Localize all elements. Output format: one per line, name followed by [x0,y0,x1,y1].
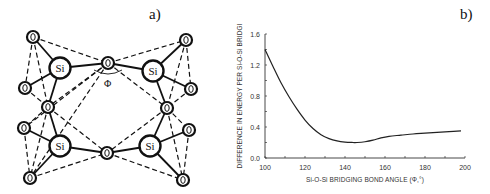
y-axis-title: DIFFERENCE IN ENERGY PER Si-O-Si BRIDGI [236,23,243,168]
energy-vs-angle-chart: 0.00.40.81.21.6100120140160180200Si-O-Si… [0,0,490,194]
y-tick-label: 1.2 [250,62,260,69]
x-tick-label: 140 [339,164,351,171]
x-tick-label: 180 [419,164,431,171]
y-tick-label: 0.0 [250,155,260,162]
y-tick-label: 1.6 [250,31,260,38]
x-tick-label: 100 [259,164,271,171]
energy-curve [265,50,461,143]
y-tick-label: 0.4 [250,124,260,131]
x-tick-label: 200 [459,164,471,171]
x-tick-label: 120 [299,164,311,171]
x-axis-title: Si-O-Si BRIDGING BOND ANGLE (Φ,°) [306,176,424,184]
y-tick-label: 0.8 [250,93,260,100]
x-tick-label: 160 [379,164,391,171]
